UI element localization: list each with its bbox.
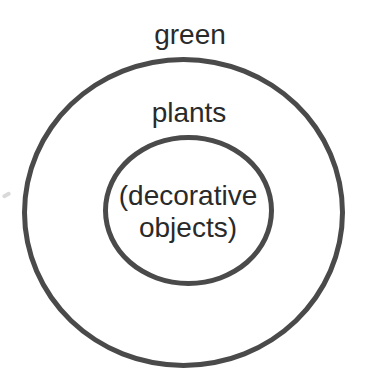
outer-circle-label: green — [154, 19, 226, 51]
concentric-circles-diagram: green plants (decorative objects) — [0, 0, 371, 381]
scan-smudge — [2, 191, 12, 199]
inner-circle-label: (decorative objects) — [98, 180, 278, 244]
middle-circle-label: plants — [152, 97, 227, 129]
